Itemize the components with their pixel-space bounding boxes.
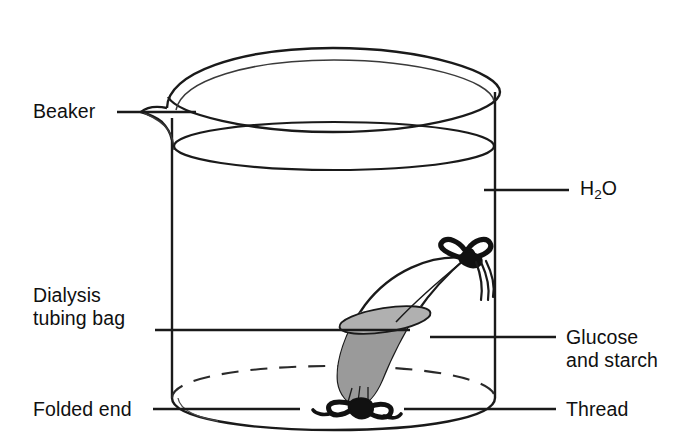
- label-beaker: Beaker: [33, 100, 95, 123]
- bottom-knot-center: [349, 398, 373, 418]
- label-contents-line1: Glucose: [566, 326, 658, 349]
- beaker-rim-outer-bottom: [168, 92, 500, 132]
- label-thread: Thread: [566, 398, 628, 421]
- label-water-prefix: H: [580, 177, 594, 199]
- label-water-text: H2O: [580, 177, 617, 199]
- beaker-rim-outer-top: [167, 48, 500, 108]
- beaker-bottom-back-hidden: [172, 366, 495, 398]
- label-water-suffix: O: [602, 177, 617, 199]
- label-water: H2O: [580, 177, 617, 202]
- top-knot-tail-1: [476, 262, 482, 300]
- label-folded-end-text: Folded end: [33, 398, 132, 420]
- label-beaker-text: Beaker: [33, 100, 95, 122]
- diagram-canvas: [0, 0, 698, 445]
- label-thread-text: Thread: [566, 398, 628, 420]
- beaker-rim-inner: [176, 60, 494, 110]
- dialysis-diagram: Beaker H2O Dialysis tubing bag Glucose a…: [0, 0, 698, 445]
- water-surface-ellipse: [174, 122, 494, 170]
- label-folded-end: Folded end: [33, 398, 132, 421]
- label-water-subscript: 2: [594, 187, 602, 202]
- label-dialysis-bag-line1: Dialysis: [33, 284, 125, 307]
- label-dialysis-bag-line2: tubing bag: [33, 307, 125, 330]
- label-contents: Glucose and starch: [566, 326, 658, 372]
- label-dialysis-bag: Dialysis tubing bag: [33, 284, 125, 330]
- label-contents-line2: and starch: [566, 349, 658, 372]
- dialysis-bag-group: [320, 257, 466, 412]
